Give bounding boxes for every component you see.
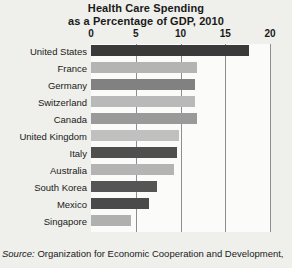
category-label: Canada	[54, 114, 87, 125]
bar	[91, 181, 157, 192]
category-label: Mexico	[57, 199, 87, 210]
x-axis-tick-labels: 05101520	[0, 28, 292, 42]
category-label: France	[57, 63, 87, 74]
x-axis-tick-5: 5	[133, 28, 139, 39]
source-label: Source:	[2, 248, 35, 259]
bar-row: United Kingdom	[0, 129, 292, 146]
bar	[91, 96, 195, 107]
x-axis-tick-20: 20	[264, 28, 275, 39]
bar	[91, 113, 197, 124]
bar	[91, 164, 174, 175]
category-label: Singapore	[44, 216, 87, 227]
bar-row: Germany	[0, 78, 292, 95]
bar-row: Italy	[0, 146, 292, 163]
bar-row: South Korea	[0, 180, 292, 197]
category-label: United Kingdom	[19, 131, 87, 142]
bar-row: Singapore	[0, 214, 292, 231]
chart-card: Health Care Spending as a Percentage of …	[0, 0, 292, 240]
source-text: Organization for Economic Cooperation an…	[37, 248, 283, 259]
bar	[91, 79, 195, 90]
category-label: Australia	[50, 165, 87, 176]
bar	[91, 130, 179, 141]
bar-row: United States	[0, 44, 292, 61]
category-label: South Korea	[34, 182, 87, 193]
bar	[91, 198, 149, 209]
bar-row: France	[0, 61, 292, 78]
chart-title: Health Care Spending as a Percentage of …	[0, 2, 292, 28]
source-note: Source: Organization for Economic Cooper…	[2, 248, 290, 260]
category-label: United States	[30, 46, 87, 57]
category-label: Switzerland	[38, 97, 87, 108]
bar-row: Australia	[0, 163, 292, 180]
x-axis-tick-15: 15	[220, 28, 231, 39]
chart-title-line-2: as a Percentage of GDP, 2010	[0, 15, 292, 28]
bar	[91, 45, 249, 56]
x-axis-tick-0: 0	[88, 28, 94, 39]
bar	[91, 62, 197, 73]
x-axis-tick-10: 10	[175, 28, 186, 39]
bar-rows: United StatesFranceGermanySwitzerlandCan…	[0, 44, 292, 232]
category-label: Italy	[70, 148, 87, 159]
bar	[91, 215, 131, 226]
chart-title-line-1: Health Care Spending	[0, 2, 292, 15]
bar	[91, 147, 177, 158]
category-label: Germany	[48, 80, 87, 91]
bar-row: Switzerland	[0, 95, 292, 112]
bar-row: Canada	[0, 112, 292, 129]
bar-row: Mexico	[0, 197, 292, 214]
